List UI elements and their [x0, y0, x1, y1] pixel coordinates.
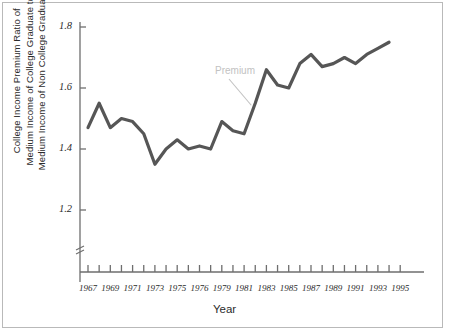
chart-figure: College Income Premium Ratio of Medium I… — [0, 0, 449, 334]
y-axis-title: College Income Premium Ratio of Medium I… — [11, 0, 49, 206]
y-tick-label-1.6: 1.6 — [46, 81, 72, 92]
x-tick-label-1995: 1995 — [385, 283, 415, 293]
y-tick-label-1.2: 1.2 — [46, 203, 72, 214]
series-line-premium — [88, 42, 389, 164]
annotation-leader-line — [76, 79, 251, 254]
y-axis-title-line-1: College Income Premium Ratio of — [11, 0, 24, 206]
annotation-label-premium: Premium — [215, 65, 255, 76]
annotation-leader-premium — [229, 79, 251, 105]
y-axis-title-line-2: Medium Income of College Graduate to — [24, 0, 37, 206]
axis-ticks — [80, 27, 400, 272]
y-tick-label-1.4: 1.4 — [46, 142, 72, 153]
data-series — [88, 42, 389, 164]
axes-group — [80, 22, 424, 282]
y-tick-label-1.8: 1.8 — [46, 20, 72, 31]
x-axis-title: Year — [0, 303, 449, 315]
